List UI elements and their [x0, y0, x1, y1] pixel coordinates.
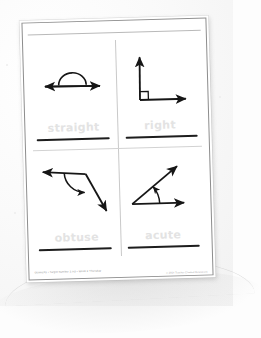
quadrant-straight: straight [28, 38, 118, 150]
obtuse-angle-diagram [36, 150, 115, 232]
scan-speck [6, 64, 8, 66]
trace-word-right: right [122, 118, 199, 134]
answer-area-acute: acute [125, 228, 202, 255]
angle-quadrant-grid: straight [28, 36, 207, 261]
quadrant-right: right [114, 36, 204, 148]
straight-angle-diagram [33, 40, 112, 122]
write-on-line-right[interactable] [125, 135, 198, 139]
trace-word-straight: straight [35, 120, 112, 136]
acute-angle-diagram [123, 148, 202, 230]
trace-word-obtuse: obtuse [38, 230, 115, 246]
answer-area-straight: straight [35, 120, 112, 147]
footer-source-text: Geometry • Target Number 2.6G • Week 2 T… [34, 270, 101, 275]
worksheet-paper: straight [19, 15, 215, 282]
right-angle-diagram [119, 38, 198, 120]
worksheet-page: straight [19, 15, 215, 282]
scan-speck [14, 212, 16, 214]
trace-word-acute: acute [125, 228, 202, 244]
write-on-line-straight[interactable] [37, 137, 110, 141]
write-on-line-acute[interactable] [127, 245, 200, 249]
answer-area-obtuse: obtuse [38, 230, 115, 257]
scan-speck [219, 96, 221, 98]
quadrant-acute: acute [117, 146, 207, 258]
write-on-line-obtuse[interactable] [39, 247, 112, 251]
answer-area-right: right [122, 118, 199, 145]
quadrant-obtuse: obtuse [31, 148, 121, 260]
